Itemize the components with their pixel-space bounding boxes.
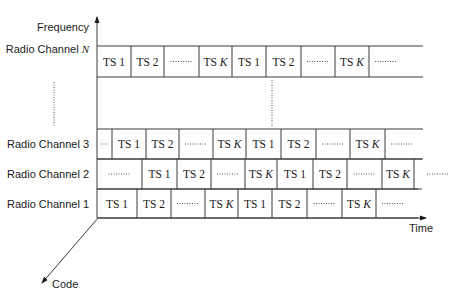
- time-slot-label: TS 2: [136, 56, 158, 68]
- radio-channel-label: Radio Channel 2: [7, 168, 89, 180]
- radio-channel-row: Radio Channel 2TS 1TS 2TS KTS 1TS 2TS K: [7, 159, 422, 189]
- channel-rows: Radio Channel NTS 1TS 2TS KTS 1TS 2TS KR…: [6, 43, 448, 218]
- diagram-canvas: Frequency Time Code Radio Channel NTS 1T…: [0, 0, 457, 300]
- radio-channel-label: Radio Channel 3: [7, 138, 89, 150]
- time-slot-label: TS 2: [143, 198, 165, 210]
- code-axis: [42, 218, 98, 283]
- code-axis-label: Code: [52, 278, 78, 290]
- time-slot-label: TS 1: [106, 198, 128, 210]
- radio-channel-label: Radio Channel N: [6, 43, 90, 55]
- time-slot-label: TS K: [340, 56, 365, 68]
- time-slot-label: TS 2: [319, 168, 341, 180]
- time-slot-label: TS 1: [148, 168, 170, 180]
- time-slot-label: TS K: [210, 198, 235, 210]
- radio-channel-row: Radio Channel NTS 1TS 2TS KTS 1TS 2TS K: [6, 43, 423, 77]
- time-slot-label: TS 1: [118, 138, 140, 150]
- time-slot-label: TS K: [204, 56, 229, 68]
- time-slot-label: TS K: [218, 138, 243, 150]
- time-slot-label: TS 1: [244, 198, 266, 210]
- tdma-fdma-diagram: Frequency Time Code Radio Channel NTS 1T…: [0, 0, 457, 300]
- time-slot-label: TS K: [386, 168, 411, 180]
- time-slot-label: TS 1: [284, 168, 306, 180]
- radio-channel-label: Radio Channel 1: [7, 198, 89, 210]
- time-slot-label: TS 2: [151, 138, 173, 150]
- time-slot-label: TS K: [356, 138, 381, 150]
- time-slot-label: TS 2: [287, 138, 309, 150]
- time-slot-label: TS 1: [103, 56, 125, 68]
- time-slot-label: TS 2: [183, 168, 205, 180]
- time-slot-label: TS 1: [252, 138, 274, 150]
- frequency-axis-label: Frequency: [37, 21, 89, 33]
- time-axis-label: Time: [409, 222, 433, 234]
- time-slot-label: TS K: [347, 198, 372, 210]
- time-slot-label: TS 2: [278, 198, 300, 210]
- time-slot-label: TS 1: [238, 56, 260, 68]
- time-slot-label: TS 2: [272, 56, 294, 68]
- radio-channel-row: Radio Channel 1TS 1TS 2TS KTS 1TS 2TS K: [7, 189, 418, 218]
- time-slot-label: TS K: [249, 168, 274, 180]
- radio-channel-row: Radio Channel 3TS 1TS 2TS KTS 1TS 2TS K: [7, 129, 423, 159]
